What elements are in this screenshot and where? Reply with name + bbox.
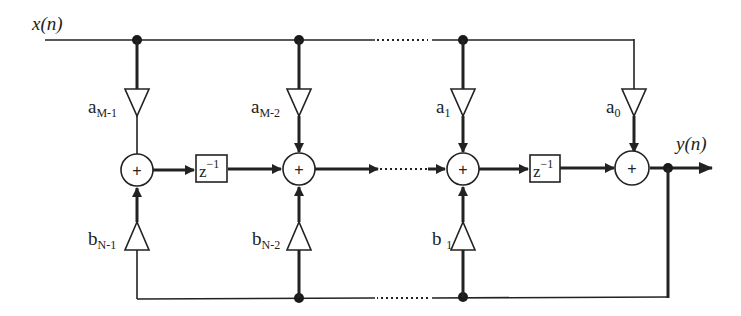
feedback-branch: bN-1 (88, 188, 149, 252)
delay-block: z−1 (196, 155, 227, 182)
output-label: y(n) (674, 133, 707, 155)
adder: + (615, 151, 649, 185)
gain-label: b 1 (432, 228, 452, 252)
svg-text:+: + (458, 161, 467, 178)
gain-label: bN-1 (88, 228, 116, 252)
input-label: x(n) (31, 13, 63, 35)
gain-triangle (451, 222, 475, 250)
gain-label: bN-2 (252, 228, 280, 252)
adder: + (283, 153, 315, 185)
feedforward-branch: a0 (606, 89, 646, 152)
adder: + (447, 153, 479, 185)
gain-label: aM-1 (88, 96, 117, 120)
gain-triangle (451, 89, 475, 116)
gain-triangle (287, 222, 311, 250)
gain-triangle (287, 89, 311, 116)
feedback-bus (137, 168, 668, 299)
adder: + (121, 154, 153, 186)
delay-block: z−1 (530, 155, 560, 182)
svg-text:+: + (627, 160, 636, 177)
feedback-branch: bN-2 (252, 187, 311, 298)
feedforward-branch: aM-2 (251, 40, 311, 152)
feedforward-branch: aM-1 (88, 40, 149, 154)
gain-triangle (125, 89, 149, 116)
gain-triangle (622, 89, 646, 116)
feedback-branch: b 1 (432, 187, 475, 297)
gain-label: a1 (436, 96, 450, 120)
svg-text:+: + (294, 161, 303, 178)
gain-label: a0 (606, 96, 620, 120)
input-bus (45, 39, 634, 89)
svg-text:+: + (132, 162, 141, 179)
gain-triangle (125, 222, 149, 250)
feedforward-branch: a1 (436, 40, 475, 152)
iir-filter-diagram: x(n) aM-1 aM-2 a1 a0 (0, 0, 741, 316)
gain-label: aM-2 (251, 96, 280, 120)
